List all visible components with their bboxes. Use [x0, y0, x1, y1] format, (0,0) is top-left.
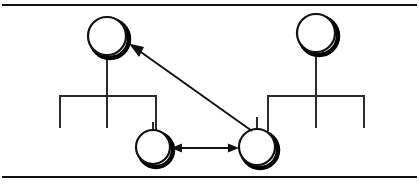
bottom-left-child-node[interactable]: [136, 130, 173, 167]
top-right-parent-node[interactable]: [297, 14, 338, 55]
kinship-diagram-canvas: [0, 0, 419, 185]
top-left-parent-node-body: [88, 17, 126, 55]
bottom-right-child-node-body: [239, 129, 275, 165]
bottom-left-child-node-body: [136, 130, 170, 164]
diagram-background: [0, 0, 419, 185]
bottom-right-child-node[interactable]: [239, 129, 278, 168]
figure-root: [0, 0, 419, 185]
top-right-parent-node-body: [297, 14, 335, 52]
top-left-parent-node[interactable]: [88, 17, 129, 58]
